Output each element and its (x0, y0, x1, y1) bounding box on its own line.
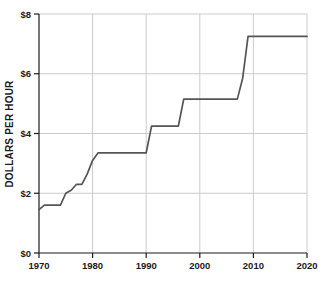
y-axis-tick-labels: $0 $2 $4 $6 $8 (20, 9, 31, 259)
xtick-label-1990: 1990 (136, 260, 157, 271)
xtick-label-1980: 1980 (82, 260, 103, 271)
wage-line-series (39, 36, 307, 209)
ytick-label-8: $8 (20, 9, 31, 20)
xtick-label-2000: 2000 (189, 260, 210, 271)
ytick-label-6: $6 (20, 68, 31, 79)
xtick-label-2020: 2020 (296, 260, 317, 271)
xtick-label-1970: 1970 (28, 260, 49, 271)
chart-canvas: $0 $2 $4 $6 $8 1970 1980 1990 2000 2010 … (0, 0, 326, 283)
grid-lines (39, 14, 307, 253)
y-axis-label: DOLLARS PER HOUR (4, 80, 15, 188)
xtick-label-2010: 2010 (243, 260, 264, 271)
x-axis-tick-labels: 1970 1980 1990 2000 2010 2020 (28, 260, 317, 271)
minimum-wage-chart: $0 $2 $4 $6 $8 1970 1980 1990 2000 2010 … (0, 0, 326, 283)
ytick-label-2: $2 (20, 188, 31, 199)
ytick-label-4: $4 (20, 128, 31, 139)
x-axis-ticks (39, 253, 307, 258)
ytick-label-0: $0 (20, 248, 31, 259)
y-axis-ticks (34, 14, 39, 253)
